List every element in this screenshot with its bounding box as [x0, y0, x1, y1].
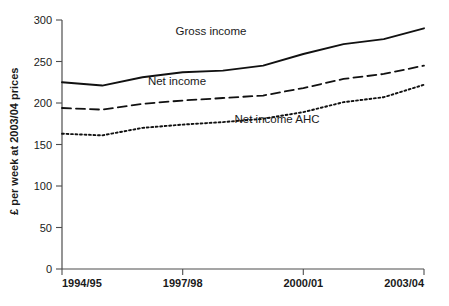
y-tick-label-0: 0	[46, 263, 52, 275]
series-label-net-income: Net income	[148, 75, 206, 87]
series-label-net-income-ahc: Net income AHC	[234, 113, 319, 125]
chart-background	[0, 0, 449, 306]
y-tick-label-150: 150	[34, 139, 52, 151]
y-tick-label-100: 100	[34, 180, 52, 192]
chart-canvas: £ per week at 2003/04 prices 0 50 100 15…	[0, 0, 449, 306]
y-tick-label-300: 300	[34, 14, 52, 26]
y-tick-label-50: 50	[40, 222, 52, 234]
x-tick-label-4: 2003/04	[384, 277, 425, 289]
y-tick-label-250: 250	[34, 56, 52, 68]
x-tick-label-1: 1994/95	[62, 277, 102, 289]
series-label-gross-income: Gross income	[176, 25, 247, 37]
y-axis-title: £ per week at 2003/04 prices	[8, 68, 20, 215]
line-chart: £ per week at 2003/04 prices 0 50 100 15…	[0, 0, 449, 306]
x-tick-label-2: 1997/98	[163, 277, 203, 289]
x-tick-label-3: 2000/01	[283, 277, 323, 289]
y-tick-label-200: 200	[34, 97, 52, 109]
